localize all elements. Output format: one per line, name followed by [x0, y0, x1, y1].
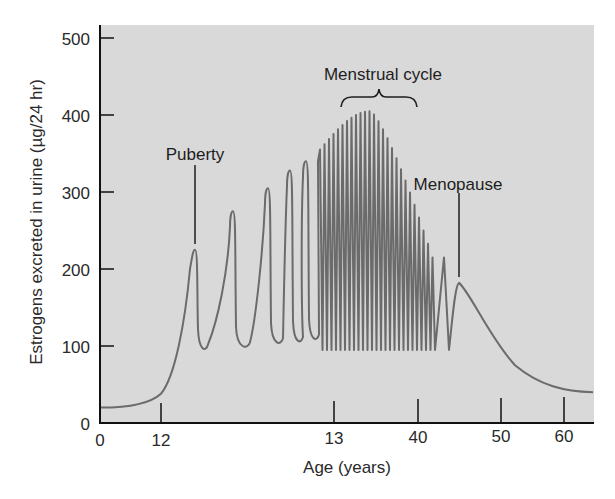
- y-tick-100: 100: [62, 338, 90, 357]
- y-tick-0: 0: [81, 415, 90, 434]
- menstrual-cycle-label: Menstrual cycle: [324, 65, 442, 84]
- y-tick-500: 500: [62, 30, 90, 49]
- y-tick-200: 200: [62, 261, 90, 280]
- y-axis-title: Estrogens excreted in urine (µg/24 hr): [27, 79, 46, 365]
- menopause-label: Menopause: [414, 175, 503, 194]
- y-tick-400: 400: [62, 107, 90, 126]
- x-tick-60: 60: [555, 427, 574, 446]
- x-tick-12: 12: [152, 431, 171, 450]
- x-tick-0: 0: [95, 431, 104, 450]
- x-tick-13: 13: [325, 429, 344, 448]
- puberty-label: Puberty: [166, 145, 225, 164]
- x-tick-40: 40: [409, 428, 428, 447]
- x-tick-50: 50: [492, 427, 511, 446]
- x-axis-title: Age (years): [303, 458, 391, 477]
- estrogen-chart: 500 400 300 200 100 0 0 12 13 40 50 60 A…: [0, 0, 615, 499]
- y-tick-labels: 500 400 300 200 100 0: [62, 30, 90, 434]
- x-tick-labels: 0 12 13 40 50 60: [95, 427, 573, 450]
- y-tick-300: 300: [62, 184, 90, 203]
